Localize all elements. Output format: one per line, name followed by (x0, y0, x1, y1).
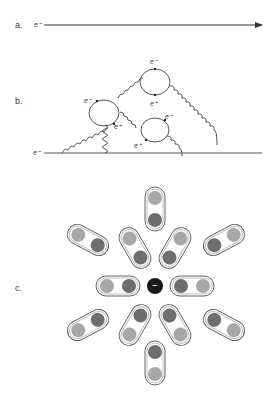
loop-left-positron: e⁺ (114, 123, 123, 130)
photon-mid-upper (118, 78, 143, 98)
photon-right (170, 86, 217, 145)
loop-right-electron: e⁻ (165, 113, 174, 120)
dipole-down-right-inner (155, 301, 194, 349)
dipole-down (145, 341, 165, 385)
incoming-electron-label: e⁻ (33, 149, 42, 156)
panel-c: − (64, 187, 248, 385)
photon-left (62, 128, 108, 153)
electron-label: e⁻ (34, 21, 43, 28)
dipole-down-left-inner (115, 301, 154, 349)
panel-b: e⁻ e⁻ e⁺ e⁻ e⁺ e⁻ e⁺ (33, 58, 262, 156)
dipole-down-left-outer (64, 306, 112, 344)
loop-top (140, 69, 170, 95)
photon-left-down (103, 125, 108, 153)
loop-right-positron: e⁺ (134, 142, 143, 149)
diagram-canvas: e⁻ e⁻ e⁻ e⁺ e⁻ e⁺ e⁻ e⁺ − (0, 0, 275, 410)
dipole-down-right-outer (200, 306, 248, 344)
dipole-right (170, 276, 214, 296)
dipole-up-left-outer (64, 221, 112, 259)
loop-left-electron: e⁻ (84, 97, 93, 104)
dipole-up-right-inner (155, 224, 194, 272)
dipole-up (145, 187, 165, 231)
panel-a: e⁻ (34, 21, 262, 28)
dipole-left (96, 276, 140, 296)
loop-right (141, 118, 169, 142)
dipole-up-right-outer (200, 221, 248, 259)
dipole-up-left-inner (115, 224, 154, 272)
loop-top-positron: e⁺ (150, 100, 159, 107)
svg-text:−: − (152, 280, 158, 291)
loop-top-electron: e⁻ (150, 58, 159, 65)
photon-mid-lower (120, 112, 136, 128)
